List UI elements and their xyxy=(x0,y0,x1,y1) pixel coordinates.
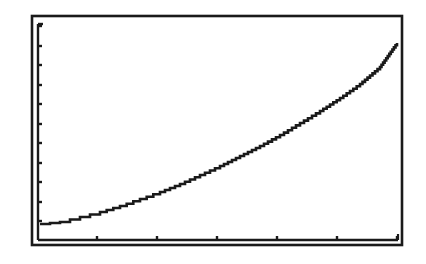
axes xyxy=(38,26,397,240)
line-chart xyxy=(0,0,426,264)
plot-curve xyxy=(40,43,397,224)
outer-frame xyxy=(32,16,402,245)
graph-frame xyxy=(32,16,402,245)
graph-screen xyxy=(0,0,426,264)
data-series-curve xyxy=(40,43,397,224)
